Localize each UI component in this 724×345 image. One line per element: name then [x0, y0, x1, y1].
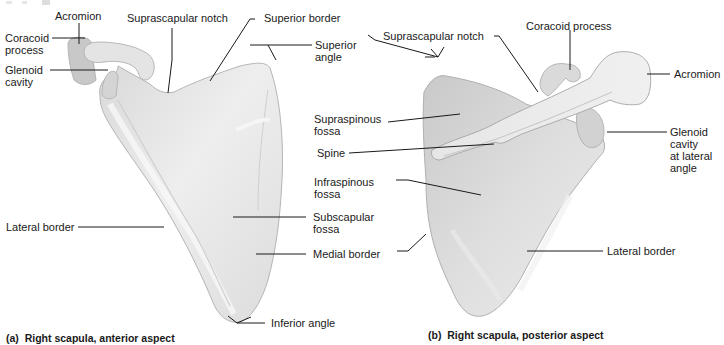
label-infraspinous-fossa: Infraspinous fossa	[314, 176, 374, 200]
label-suprascapular-notch-b: Suprascapular notch	[383, 30, 484, 42]
label-spine: Spine	[317, 147, 345, 159]
label-medial-border: Medial border	[313, 248, 380, 260]
label-subscapular-fossa: Subscapular fossa	[313, 211, 374, 235]
label-superior-border-a: Superior border	[264, 12, 340, 24]
label-coracoid-process-b: Coracoid process	[526, 20, 612, 32]
scapula-anterior	[68, 37, 283, 322]
label-glenoid-cavity-b: Glenoid cavity at lateral angle	[670, 126, 712, 174]
caption-panel-a: (a) Right scapula, anterior aspect	[6, 332, 175, 344]
label-glenoid-cavity-a: Glenoid cavity	[5, 64, 43, 88]
label-inferior-angle: Inferior angle	[271, 317, 335, 329]
label-lateral-border-a: Lateral border	[6, 221, 75, 233]
label-lateral-border-b: Lateral border	[607, 245, 676, 257]
label-acromion-a: Acromion	[55, 10, 101, 22]
label-supraspinous-fossa: Supraspinous fossa	[314, 113, 381, 137]
label-acromion-b: Acromion	[674, 68, 720, 80]
scapula-illustration	[0, 0, 724, 345]
scapula-figure: Acromion Coracoid process Glenoid cavity…	[0, 0, 724, 345]
caption-panel-b: (b) Right scapula, posterior aspect	[428, 329, 604, 341]
label-suprascapular-notch-a: Suprascapular notch	[127, 12, 228, 24]
corner-artifact	[6, 0, 50, 5]
label-superior-angle: Superior angle	[315, 39, 357, 63]
label-coracoid-process-a: Coracoid process	[5, 32, 49, 56]
